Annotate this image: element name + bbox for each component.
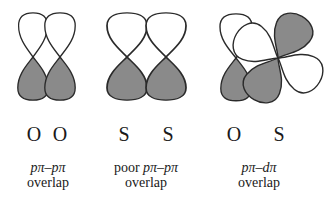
caption-term: pπ–pπ	[143, 160, 178, 175]
atom-label: S	[118, 124, 129, 144]
p-orbital-right	[45, 13, 75, 100]
atom-label: O	[53, 124, 67, 144]
caption-panel-2: poor pπ–pπ overlap	[114, 160, 178, 190]
atom-label: O	[227, 124, 241, 144]
caption-term: pπ–pπ	[30, 160, 65, 175]
caption-term: pπ–dπ	[241, 160, 276, 175]
caption-panel-1: pπ–pπ overlap	[27, 160, 69, 190]
caption-prefix: poor	[114, 160, 143, 175]
caption-suffix: overlap	[125, 175, 167, 190]
atom-label: S	[273, 124, 284, 144]
atom-label: O	[27, 124, 41, 144]
caption-panel-3: pπ–dπ overlap	[238, 160, 280, 190]
caption-suffix: overlap	[238, 175, 280, 190]
panel-2-orbitals	[107, 13, 186, 100]
p-orbital-right	[146, 13, 186, 100]
atom-label: S	[162, 124, 173, 144]
panel-1-orbitals	[18, 13, 75, 100]
p-orbital-left	[18, 13, 48, 100]
p-orbital-left	[107, 13, 147, 100]
panel-3-orbitals	[220, 7, 329, 109]
caption-suffix: overlap	[27, 175, 69, 190]
